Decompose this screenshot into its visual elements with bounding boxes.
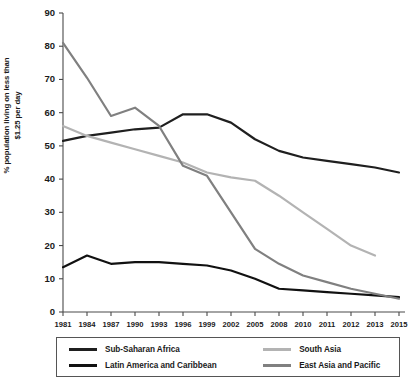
x-tick-label: 1990: [127, 320, 144, 329]
legend-swatch-icon: [69, 348, 97, 351]
legend-item-sub-saharan-africa[interactable]: Sub-Saharan Africa: [57, 345, 263, 354]
x-tick-label: 2013: [367, 320, 384, 329]
x-tick-label: 2011: [319, 320, 336, 329]
x-tick-label: 1987: [103, 320, 120, 329]
y-tick-label: 80: [44, 40, 55, 51]
legend-item-east-asia-and-pacific[interactable]: East Asia and Pacific: [263, 361, 399, 370]
x-tick-label: 1999: [199, 320, 216, 329]
y-tick-label: 50: [44, 140, 55, 151]
legend-label: East Asia and Pacific: [299, 361, 380, 370]
y-tick-label: 60: [44, 107, 55, 118]
x-tick-label: 2010: [295, 320, 312, 329]
x-tick-label: 2015: [391, 320, 409, 329]
legend-swatch-icon: [263, 364, 291, 367]
y-tick-label: 0: [50, 306, 55, 317]
series-line-south-asia: [63, 126, 375, 256]
y-tick-label: 90: [44, 7, 55, 18]
chart-legend: Sub-Saharan Africa South Asia Latin Amer…: [56, 337, 400, 377]
legend-swatch-icon: [263, 348, 291, 351]
y-tick-label: 70: [44, 73, 55, 84]
x-tick-label: 2002: [223, 320, 240, 329]
x-tick-label: 1984: [79, 320, 97, 329]
y-tick-label: 30: [44, 206, 55, 217]
x-tick-label: 2008: [271, 320, 288, 329]
legend-item-latin-america-and-caribbean[interactable]: Latin America and Caribbean: [57, 361, 263, 370]
legend-label: Latin America and Caribbean: [105, 361, 217, 370]
x-tick-label: 2005: [247, 320, 265, 329]
legend-label: South Asia: [299, 345, 341, 354]
legend-label: Sub-Saharan Africa: [105, 345, 180, 354]
x-tick-label: 2012: [343, 320, 360, 329]
series-line-east-asia-and-pacific: [63, 43, 399, 299]
x-tick-label: 1981: [55, 320, 73, 329]
legend-swatch-icon: [69, 364, 97, 367]
legend-row: Sub-Saharan Africa South Asia: [57, 341, 399, 357]
y-tick-label: 10: [44, 273, 55, 284]
legend-row: Latin America and Caribbean East Asia an…: [57, 357, 399, 373]
line-chart-plot: 0102030405060708090 19811984198719901993…: [0, 0, 417, 382]
chart-container: % population living on less than $1.25 p…: [0, 0, 417, 382]
data-series-group: [63, 43, 399, 299]
x-tick-label: 1996: [175, 320, 192, 329]
y-tick-label: 40: [44, 173, 55, 184]
y-tick-label: 20: [44, 240, 55, 251]
y-axis-ticks: 0102030405060708090: [44, 7, 63, 317]
x-tick-label: 1993: [151, 320, 168, 329]
legend-item-south-asia[interactable]: South Asia: [263, 345, 399, 354]
series-line-latin-america-and-caribbean: [63, 256, 399, 298]
x-axis-ticks: 1981198419871990199319961999200220052008…: [55, 312, 409, 329]
